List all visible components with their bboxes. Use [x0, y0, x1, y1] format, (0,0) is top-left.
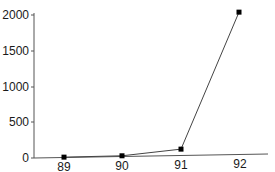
- y-tick-label-0: 0: [22, 151, 29, 165]
- data-point-marker-89: [62, 155, 67, 160]
- x-tick-label-89: 89: [57, 160, 71, 172]
- line-chart: 0 500 1000 1500 2000 89 90 91 92: [0, 0, 275, 172]
- x-tick-label-92: 92: [233, 157, 247, 171]
- data-point-marker-92: [237, 10, 242, 15]
- data-point-marker-91: [179, 147, 184, 152]
- series-line: [64, 12, 239, 157]
- series-markers: [62, 10, 242, 160]
- data-point-marker-90: [120, 153, 125, 158]
- y-tick-label-1500: 1500: [2, 44, 29, 58]
- y-tick-label-1000: 1000: [2, 80, 29, 94]
- x-tick-label-90: 90: [115, 159, 129, 172]
- x-tick-labels: 89 90 91 92: [57, 157, 247, 172]
- y-tick-label-2000: 2000: [2, 8, 29, 22]
- y-tick-label-500: 500: [9, 115, 29, 129]
- y-tick-labels: 0 500 1000 1500 2000: [2, 8, 29, 165]
- x-tick-label-91: 91: [174, 158, 188, 172]
